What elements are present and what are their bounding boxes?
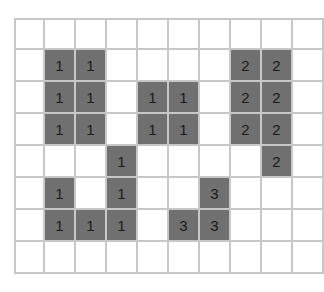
grid-cell-empty — [169, 242, 200, 274]
grid-cell-region-1: 1 — [45, 114, 76, 146]
grid-cell-empty — [76, 18, 107, 50]
grid-cell-empty — [231, 18, 262, 50]
grid-cell-region-2: 2 — [262, 82, 293, 114]
grid-cell-empty — [231, 210, 262, 242]
grid-cell-empty — [200, 146, 231, 178]
grid-cell-empty — [200, 114, 231, 146]
grid-cell-region-2: 2 — [231, 50, 262, 82]
grid-cell-empty — [14, 114, 45, 146]
grid-cell-empty — [107, 242, 138, 274]
grid-cell-empty — [293, 114, 324, 146]
grid-cell-region-3: 3 — [200, 178, 231, 210]
grid-cell-empty — [293, 82, 324, 114]
grid-cell-empty — [293, 210, 324, 242]
grid-cell-empty — [262, 210, 293, 242]
grid-cell-region-3: 3 — [169, 210, 200, 242]
grid-cell-empty — [45, 18, 76, 50]
grid-cell-empty — [262, 18, 293, 50]
grid-cell-empty — [262, 242, 293, 274]
grid-cell-empty — [107, 82, 138, 114]
grid-cell-empty — [169, 50, 200, 82]
grid-cell-region-1: 1 — [45, 50, 76, 82]
grid-cell-region-1: 1 — [169, 82, 200, 114]
grid-cell-empty — [45, 242, 76, 274]
grid-cell-region-1: 1 — [45, 210, 76, 242]
grid-cell-empty — [262, 178, 293, 210]
grid-cell-region-1: 1 — [45, 178, 76, 210]
grid-cell-empty — [138, 18, 169, 50]
grid-cell-region-2: 2 — [262, 114, 293, 146]
grid-cell-empty — [14, 82, 45, 114]
grid-cell-empty — [76, 178, 107, 210]
grid-cell-region-1: 1 — [76, 50, 107, 82]
grid-cell-region-1: 1 — [76, 210, 107, 242]
grid-cell-empty — [76, 242, 107, 274]
grid-cell-empty — [76, 146, 107, 178]
grid-cell-empty — [14, 50, 45, 82]
grid-cell-region-1: 1 — [45, 82, 76, 114]
grid-cell-empty — [138, 210, 169, 242]
grid-cell-empty — [169, 178, 200, 210]
grid-cell-empty — [138, 242, 169, 274]
grid-cell-region-2: 2 — [231, 82, 262, 114]
grid-cell-empty — [293, 146, 324, 178]
grid-cell-region-2: 2 — [262, 146, 293, 178]
grid-cell-region-1: 1 — [138, 82, 169, 114]
grid-cell-empty — [293, 242, 324, 274]
grid-cell-empty — [138, 50, 169, 82]
grid-cell-empty — [293, 50, 324, 82]
grid-cell-empty — [293, 18, 324, 50]
grid-cell-empty — [14, 18, 45, 50]
grid-cell-region-2: 2 — [231, 114, 262, 146]
grid-cell-empty — [45, 146, 76, 178]
grid-cell-empty — [14, 146, 45, 178]
grid-cell-region-1: 1 — [76, 82, 107, 114]
grid-cell-empty — [200, 82, 231, 114]
grid-cell-region-1: 1 — [107, 178, 138, 210]
grid-cell-empty — [138, 178, 169, 210]
grid-cell-region-1: 1 — [169, 114, 200, 146]
grid-cell-empty — [14, 178, 45, 210]
grid-cell-empty — [200, 242, 231, 274]
grid-cell-empty — [200, 18, 231, 50]
grid-cell-empty — [231, 146, 262, 178]
grid-cell-empty — [293, 178, 324, 210]
grid-cell-empty — [231, 242, 262, 274]
grid-cell-empty — [14, 242, 45, 274]
grid-cell-region-1: 1 — [107, 210, 138, 242]
grid-cell-empty — [231, 178, 262, 210]
grid-cell-empty — [107, 18, 138, 50]
grid-cell-region-3: 3 — [200, 210, 231, 242]
grid-cell-region-1: 1 — [76, 114, 107, 146]
grid-cell-empty — [138, 146, 169, 178]
grid-cell-region-2: 2 — [262, 50, 293, 82]
grid-cell-empty — [169, 18, 200, 50]
grid-cell-empty — [200, 50, 231, 82]
grid-cell-empty — [14, 210, 45, 242]
grid-cell-empty — [107, 114, 138, 146]
grid-cell-empty — [169, 146, 200, 178]
labeled-region-grid: 11221111221111221211311133 — [14, 18, 324, 274]
grid-cell-empty — [107, 50, 138, 82]
grid-cell-region-1: 1 — [138, 114, 169, 146]
grid-cell-region-1: 1 — [107, 146, 138, 178]
